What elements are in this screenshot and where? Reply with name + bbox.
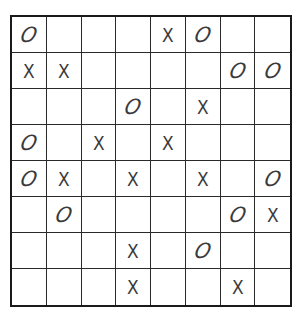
x-mark-icon: X [127,241,139,261]
board-cell-r4-c2[interactable] [47,125,82,161]
board-cell-r3-c6[interactable]: X [186,89,221,125]
board-cell-r8-c5[interactable] [151,269,186,305]
board-cell-r3-c3[interactable] [82,89,117,125]
board-cell-r8-c8[interactable] [255,269,290,305]
o-mark-icon: O [193,240,213,261]
board-cell-r4-c1[interactable]: O [12,125,47,161]
title-fragment [143,0,157,2]
board-cell-r4-c6[interactable] [186,125,221,161]
board-cell-r8-c4[interactable]: X [116,269,151,305]
x-mark-icon: X [58,61,70,81]
board-cell-r2-c8[interactable]: O [255,53,290,89]
board-cell-r3-c7[interactable] [221,89,256,125]
board-cell-r7-c5[interactable] [151,233,186,269]
board-cell-r4-c7[interactable] [221,125,256,161]
board-cell-r2-c1[interactable]: X [12,53,47,89]
board-cell-r7-c1[interactable] [12,233,47,269]
x-mark-icon: X [23,61,35,81]
board-cell-r6-c1[interactable] [12,197,47,233]
board-cell-r1-c2[interactable] [47,17,82,53]
o-mark-icon: O [227,60,247,81]
x-mark-icon: X [232,277,244,297]
o-mark-icon: O [19,24,39,45]
board-cell-r2-c4[interactable] [116,53,151,89]
x-mark-icon: X [93,133,105,153]
x-mark-icon: X [162,133,174,153]
board-cell-r2-c6[interactable] [186,53,221,89]
o-mark-icon: O [19,132,39,153]
x-mark-icon: X [197,97,209,117]
o-mark-icon: O [123,96,143,117]
board-cell-r5-c8[interactable]: O [255,161,290,197]
board-cell-r1-c5[interactable]: X [151,17,186,53]
board-cell-r6-c4[interactable] [116,197,151,233]
board-cell-r1-c3[interactable] [82,17,117,53]
board-cell-r7-c8[interactable] [255,233,290,269]
board-cell-r5-c1[interactable]: O [12,161,47,197]
board-cell-r3-c4[interactable]: O [116,89,151,125]
board-cell-r7-c2[interactable] [47,233,82,269]
x-mark-icon: X [127,277,139,297]
board-cell-r4-c5[interactable]: X [151,125,186,161]
o-mark-icon: O [263,60,283,81]
x-mark-icon: X [197,169,209,189]
board-cell-r6-c6[interactable] [186,197,221,233]
o-mark-icon: O [193,24,213,45]
board-cell-r6-c5[interactable] [151,197,186,233]
puzzle-board: OXOXXOOOXOXXOXXXOOOXXOXX [10,15,292,307]
o-mark-icon: O [263,168,283,189]
board-cell-r8-c3[interactable] [82,269,117,305]
board-cell-r4-c3[interactable]: X [82,125,117,161]
board-cell-r3-c2[interactable] [47,89,82,125]
board-cell-r6-c3[interactable] [82,197,117,233]
board-cell-r5-c5[interactable] [151,161,186,197]
board-cell-r8-c7[interactable]: X [221,269,256,305]
board-cell-r1-c1[interactable]: O [12,17,47,53]
x-mark-icon: X [58,169,70,189]
board-cell-r2-c3[interactable] [82,53,117,89]
board-cell-r1-c7[interactable] [221,17,256,53]
board-cell-r5-c7[interactable] [221,161,256,197]
board-cell-r2-c5[interactable] [151,53,186,89]
board-cell-r3-c1[interactable] [12,89,47,125]
board-cell-r6-c2[interactable]: O [47,197,82,233]
board-cell-r7-c7[interactable] [221,233,256,269]
board-cell-r2-c7[interactable]: O [221,53,256,89]
board-cell-r7-c3[interactable] [82,233,117,269]
board-cell-r8-c6[interactable] [186,269,221,305]
board-cell-r3-c5[interactable] [151,89,186,125]
x-mark-icon: X [162,25,174,45]
board-cell-r5-c3[interactable] [82,161,117,197]
board-cell-r8-c1[interactable] [12,269,47,305]
o-mark-icon: O [54,204,74,225]
board-cell-r1-c6[interactable]: O [186,17,221,53]
o-mark-icon: O [19,168,39,189]
board-cell-r5-c2[interactable]: X [47,161,82,197]
board-cell-r6-c8[interactable]: X [255,197,290,233]
board-cell-r3-c8[interactable] [255,89,290,125]
board-cell-r5-c6[interactable]: X [186,161,221,197]
board-cell-r4-c4[interactable] [116,125,151,161]
board-cell-r7-c4[interactable]: X [116,233,151,269]
board-cell-r6-c7[interactable]: O [221,197,256,233]
board-cell-r1-c8[interactable] [255,17,290,53]
x-mark-icon: X [127,169,139,189]
board-cell-r8-c2[interactable] [47,269,82,305]
board-cell-r5-c4[interactable]: X [116,161,151,197]
board-cell-r4-c8[interactable] [255,125,290,161]
board-cell-r2-c2[interactable]: X [47,53,82,89]
o-mark-icon: O [227,204,247,225]
board-cell-r1-c4[interactable] [116,17,151,53]
x-mark-icon: X [267,205,279,225]
board-cell-r7-c6[interactable]: O [186,233,221,269]
